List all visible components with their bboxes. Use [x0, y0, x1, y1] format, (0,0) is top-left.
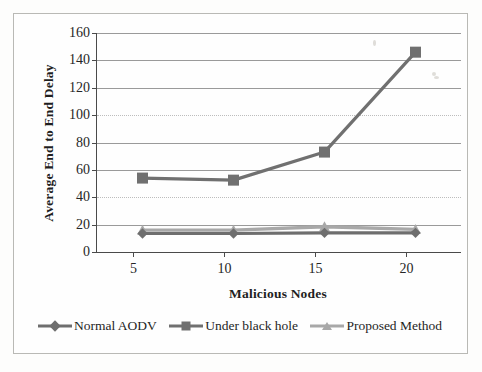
triangle-marker-icon [322, 322, 332, 330]
x-axis-title: Malicious Nodes [96, 286, 460, 302]
data-point-marker [410, 47, 421, 58]
diamond-marker-icon [49, 320, 60, 331]
ytick-label-120: 120 [69, 80, 90, 96]
data-point-marker [319, 147, 330, 158]
legend-swatch-normal-aodv [38, 319, 72, 333]
ytick-mark-0 [92, 252, 97, 253]
data-point-marker [137, 173, 148, 184]
y-axis-title-text: Average End to End Delay [41, 64, 57, 222]
legend-label-under-black-hole: Under black hole [205, 318, 298, 334]
ytick-label-100: 100 [69, 107, 90, 123]
ytick-label-0: 0 [83, 244, 90, 260]
xtick-mark-15 [315, 252, 316, 257]
legend-item-under-black-hole: Under black hole [169, 318, 298, 334]
ytick-label-20: 20 [76, 217, 90, 233]
ytick-label-60: 60 [76, 162, 90, 178]
series-plot [97, 33, 461, 252]
xtick-mark-5 [133, 252, 134, 257]
xtick-mark-10 [224, 252, 225, 257]
legend-label-proposed-method: Proposed Method [346, 318, 442, 334]
legend-swatch-proposed-method [310, 319, 344, 333]
ytick-label-140: 140 [69, 52, 90, 68]
xtick-label-15: 15 [308, 261, 322, 277]
ytick-label-40: 40 [76, 189, 90, 205]
series-under-black-hole [137, 47, 421, 186]
legend-item-normal-aodv: Normal AODV [38, 318, 157, 334]
plot-area: 160 140 120 100 80 60 40 20 0 5 10 15 20 [96, 33, 461, 253]
legend-label-normal-aodv: Normal AODV [74, 318, 157, 334]
legend-swatch-under-black-hole [169, 319, 203, 333]
chart-figure: Average End to End Delay 160 140 120 100… [0, 0, 482, 372]
xtick-mark-20 [406, 252, 407, 257]
legend-item-proposed-method: Proposed Method [310, 318, 442, 334]
xtick-label-5: 5 [130, 261, 137, 277]
xtick-label-20: 20 [399, 261, 413, 277]
ytick-label-80: 80 [76, 135, 90, 151]
ytick-label-160: 160 [69, 25, 90, 41]
y-axis-title: Average End to End Delay [40, 33, 58, 252]
data-point-marker [228, 175, 239, 186]
chart-legend: Normal AODV Under black hole Proposed Me… [30, 318, 450, 334]
xtick-label-10: 10 [217, 261, 231, 277]
square-marker-icon [182, 322, 191, 331]
